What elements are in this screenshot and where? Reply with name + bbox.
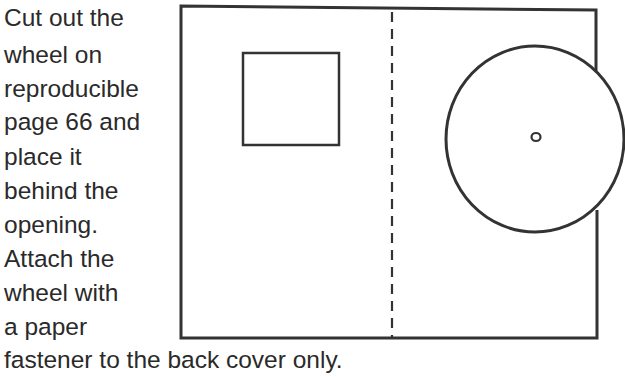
fastener-hole bbox=[532, 133, 541, 141]
cover-diagram bbox=[0, 0, 625, 377]
wheel-circle bbox=[446, 46, 624, 232]
square-opening bbox=[243, 53, 339, 145]
